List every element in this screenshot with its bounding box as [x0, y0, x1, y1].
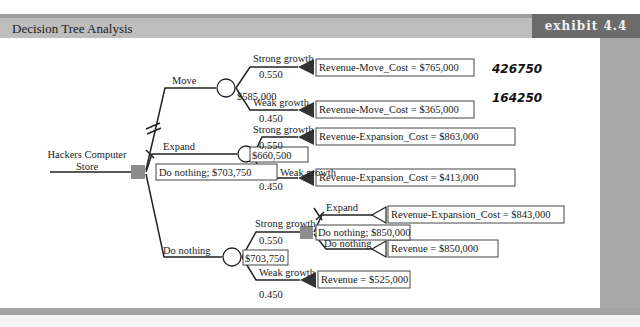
- do-nothing-weak-prob: 0.450: [259, 289, 283, 300]
- move-strong-payoff: Revenue-Move_Cost = $765,000: [319, 62, 459, 73]
- handwritten-note: 426750: [491, 62, 542, 76]
- do-nothing-branch-label: Do nothing: [163, 245, 211, 256]
- expand-weak-prob: 0.450: [259, 181, 283, 192]
- move-strong-label: Strong growth: [253, 53, 314, 64]
- second-nothing-payoff: Revenue = $850,000: [391, 243, 478, 254]
- move-weak-label: Weak growth: [253, 97, 310, 108]
- root-label: Hackers Computer: [47, 149, 127, 160]
- expand-strong-prob: 0.550: [259, 140, 283, 151]
- second-nothing-label: Do nothing: [324, 238, 372, 249]
- bottom-band: [0, 308, 640, 315]
- exhibit-badge: exhibit 4.4: [532, 14, 640, 38]
- do-nothing-strong-prob: 0.550: [259, 235, 283, 246]
- bottom-margin: [0, 315, 640, 327]
- do-nothing-chance-node: [223, 248, 241, 266]
- expand-strong-payoff: Revenue-Expansion_Cost = $863,000: [319, 131, 479, 142]
- move-strong-prob: 0.550: [259, 69, 283, 80]
- root-label-line2: Store: [76, 161, 99, 172]
- do-nothing-weak-payoff: Revenue = $525,000: [321, 274, 408, 285]
- terminal-node: [372, 241, 386, 257]
- move-chance-node: [217, 79, 235, 97]
- decision-tree-diagram: Hackers Computer Store Do nothing; $703,…: [0, 38, 600, 308]
- terminal-node: [372, 207, 386, 223]
- page-title: Decision Tree Analysis: [12, 21, 133, 37]
- move-branch-label: Move: [172, 75, 197, 86]
- second-expand-payoff: Revenue-Expansion_Cost = $843,000: [391, 209, 551, 220]
- expand-weak-payoff: Revenue-Expansion_Cost = $413,000: [319, 172, 479, 183]
- move-weak-prob: 0.450: [259, 113, 283, 124]
- expand-strong-label: Strong growth: [253, 124, 314, 135]
- move-weak-payoff: Revenue-Move_Cost = $365,000: [319, 104, 459, 115]
- right-margin-strip: [600, 38, 640, 315]
- second-decision-value: Do nothing; $850,000: [318, 227, 410, 238]
- do-nothing-strong-label: Strong growth: [255, 218, 316, 229]
- do-nothing-weak-label: Weak growth: [259, 267, 316, 278]
- expand-chance-value: $660,500: [252, 150, 291, 161]
- handwritten-note: 164250: [492, 91, 542, 105]
- do-nothing-chance-value: $703,750: [245, 253, 284, 264]
- expand-branch-label: Expand: [163, 141, 196, 152]
- root-decision-value: Do nothing; $703,750: [159, 167, 251, 178]
- second-expand-label: Expand: [326, 202, 359, 213]
- top-margin: [0, 0, 640, 14]
- root-decision-node: [131, 165, 145, 179]
